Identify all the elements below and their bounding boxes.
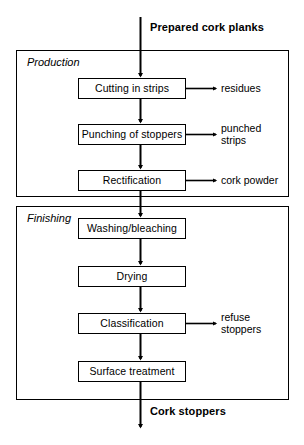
step-washing-bleaching[interactable]: Washing/bleaching [78,218,186,239]
step-classification[interactable]: Classification [78,313,186,334]
byproduct-label-residues: residues [221,83,261,95]
step-rectification[interactable]: Rectification [78,170,186,191]
group-label-finishing: Finishing [27,213,71,224]
flow-diagram: Production Finishing Cutting in strips P… [0,0,304,445]
output-label-cork-stoppers: Cork stoppers [150,406,226,417]
input-label-prepared-cork-planks: Prepared cork planks [150,22,264,33]
byproduct-label-cork-powder: cork powder [221,175,278,187]
step-punching-of-stoppers[interactable]: Punching of stoppers [78,124,186,145]
step-surface-treatment[interactable]: Surface treatment [78,361,186,382]
byproduct-label-refuse-stoppers: refuse stoppers [221,312,261,335]
group-label-production: Production [27,57,80,68]
byproduct-label-punched-strips: punched strips [221,123,261,146]
step-cutting-in-strips[interactable]: Cutting in strips [78,78,186,99]
step-drying[interactable]: Drying [78,266,186,287]
